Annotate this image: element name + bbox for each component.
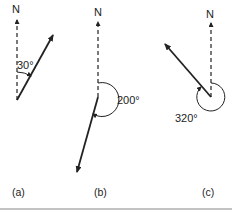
angle-label-c: 320° bbox=[175, 112, 198, 124]
north-label-c: N bbox=[206, 8, 214, 20]
bearing-vector-b bbox=[77, 97, 98, 172]
panel-b: N 200° (b) bbox=[77, 6, 140, 198]
panel-c: N 320° (c) bbox=[165, 8, 225, 198]
angle-label-a: 30° bbox=[17, 59, 34, 71]
angle-arc-a bbox=[17, 72, 31, 76]
bearings-diagram: N 30° (a) N 200° (b) N 320° (c) bbox=[0, 0, 232, 214]
bearing-vector-c bbox=[165, 44, 211, 97]
caption-c: (c) bbox=[202, 186, 214, 198]
angle-label-b: 200° bbox=[117, 94, 140, 106]
caption-a: (a) bbox=[12, 186, 25, 198]
panel-a: N 30° (a) bbox=[12, 3, 53, 198]
north-label-a: N bbox=[12, 3, 20, 15]
north-label-b: N bbox=[94, 6, 102, 18]
caption-b: (b) bbox=[94, 186, 107, 198]
